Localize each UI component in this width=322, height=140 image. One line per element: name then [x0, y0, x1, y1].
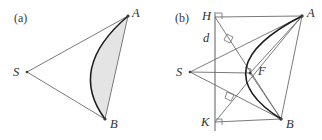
segment-HA: [215, 16, 302, 17]
panel-a-drawing: [0, 0, 161, 140]
point-A: [126, 14, 129, 17]
point-A: [300, 14, 303, 17]
point-label-A: A: [307, 6, 315, 21]
point-label-A: A: [132, 6, 140, 21]
point-B: [103, 117, 106, 120]
segment-SF: [190, 72, 250, 73]
panel-b: (b): [161, 0, 322, 140]
point-S: [26, 71, 29, 74]
arc-AB: [246, 16, 302, 119]
point-F: [249, 72, 252, 75]
right-angle-lower-tangent: [225, 92, 234, 101]
segment-SB: [190, 72, 281, 119]
point-label-S: S: [13, 65, 19, 80]
point-label-B: B: [110, 117, 118, 132]
point-B: [279, 117, 282, 120]
segment-KB: [215, 119, 281, 122]
right-angle-at-H: [216, 13, 222, 19]
point-label-B: B: [286, 117, 294, 132]
figure-root: (a) S A B (b): [0, 0, 322, 140]
point-label-F: F: [258, 64, 266, 79]
panel-a: (a) S A B: [0, 0, 161, 140]
point-label-H: H: [202, 9, 211, 24]
point-S: [189, 71, 192, 74]
panel-b-drawing: [161, 0, 322, 140]
point-label-K: K: [201, 115, 209, 130]
point-label-S: S: [176, 65, 182, 80]
segment-AB: [281, 16, 302, 119]
directrix-label-d: d: [203, 31, 209, 46]
